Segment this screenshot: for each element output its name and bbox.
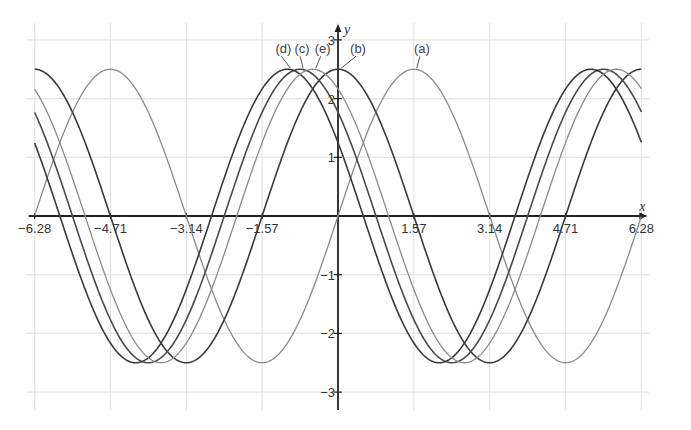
- curve-labels: (a)(b)(c)(d)(e): [275, 41, 429, 68]
- x-tick-label: 1.57: [401, 221, 426, 236]
- x-tick-label: −1.57: [246, 221, 279, 236]
- axes: −6.28−4.71−3.14−1.571.573.144.716.28321−…: [18, 24, 654, 410]
- x-tick-label: 3.14: [477, 221, 502, 236]
- y-tick-label: −3: [320, 385, 335, 400]
- x-tick-label: −4.71: [94, 221, 127, 236]
- label-leader: [316, 56, 321, 68]
- x-tick-label: 4.71: [553, 221, 578, 236]
- x-tick-label: −6.28: [18, 221, 51, 236]
- curve-label-a: (a): [414, 41, 430, 56]
- y-tick-label: −2: [320, 326, 335, 341]
- chart-canvas: −6.28−4.71−3.14−1.571.573.144.716.28321−…: [0, 0, 691, 430]
- curve-label-d: (d): [275, 41, 291, 56]
- label-leader: [281, 56, 290, 68]
- label-leader: [417, 56, 420, 68]
- label-leader: [300, 56, 303, 68]
- y-axis-label: y: [342, 22, 351, 37]
- y-tick-label: 1: [328, 150, 335, 165]
- y-tick-label: −1: [320, 268, 335, 283]
- curve-label-b: (b): [350, 41, 366, 56]
- x-tick-label: −3.14: [170, 221, 203, 236]
- x-axis-label: x: [638, 199, 646, 214]
- curve-label-e: (e): [315, 41, 331, 56]
- y-axis-arrow-icon: [335, 24, 342, 32]
- label-leader: [341, 56, 356, 68]
- curve-label-c: (c): [294, 41, 309, 56]
- x-tick-label: 6.28: [629, 221, 654, 236]
